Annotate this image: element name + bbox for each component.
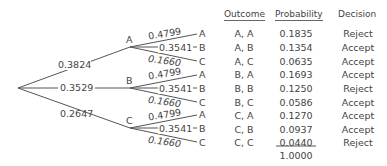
row-decision: Accept [336, 97, 380, 108]
leaf-a-b: B [199, 42, 206, 53]
header-decision: Decision [338, 9, 376, 20]
leaf-c-a: A [199, 109, 206, 120]
prob-a-b: 0.3541 [158, 42, 193, 53]
row-probability: 0.0586 [276, 97, 316, 108]
row-decision: Accept [336, 110, 380, 121]
row-outcome: A, C [226, 56, 262, 67]
row-outcome: A, A [226, 28, 262, 39]
row-outcome: C, A [226, 110, 262, 121]
node-c: C [126, 115, 133, 126]
row-probability: 0.0635 [276, 56, 316, 67]
row-probability: 0.1250 [276, 83, 316, 94]
row-decision: Accept [336, 124, 380, 135]
leaf-b-c: C [199, 97, 206, 108]
row-decision: Reject [336, 28, 380, 39]
probability-total: 1.0000 [276, 150, 316, 161]
row-probability: 0.1835 [276, 28, 316, 39]
row-probability: 0.1693 [276, 69, 316, 80]
row-probability: 0.1270 [276, 110, 316, 121]
leaf-b-b: B [199, 83, 206, 94]
leaf-a-a: A [199, 28, 206, 39]
row-decision: Accept [336, 42, 380, 53]
header-probability: Probability [275, 9, 323, 21]
row-decision: Reject [336, 137, 380, 148]
row-outcome: B, C [226, 97, 262, 108]
header-outcome: Outcome [224, 9, 265, 21]
branch-prob-b: 0.3529 [58, 82, 95, 93]
node-a: A [126, 34, 133, 45]
prob-c-b: 0.3541 [158, 123, 193, 134]
row-outcome: C, C [226, 137, 262, 148]
leaf-c-b: B [199, 123, 206, 134]
row-probability: 0.1354 [276, 42, 316, 53]
row-decision: Accept [336, 56, 380, 67]
leaf-b-a: A [199, 69, 206, 80]
row-outcome: B, B [226, 83, 262, 94]
row-probability: 0.0440 [276, 137, 316, 148]
leaf-c-c: C [199, 137, 206, 148]
row-decision: Accept [336, 69, 380, 80]
row-decision: Reject [336, 83, 380, 94]
node-b: B [126, 75, 133, 86]
leaf-a-c: C [199, 56, 206, 67]
row-outcome: A, B [226, 42, 262, 53]
row-probability: 0.0937 [276, 124, 316, 135]
row-outcome: C, B [226, 124, 262, 135]
branch-prob-c: 0.2647 [60, 108, 93, 119]
branch-prob-a: 0.3824 [58, 59, 91, 70]
row-outcome: B, A [226, 69, 262, 80]
prob-b-b: 0.3541 [158, 83, 193, 94]
